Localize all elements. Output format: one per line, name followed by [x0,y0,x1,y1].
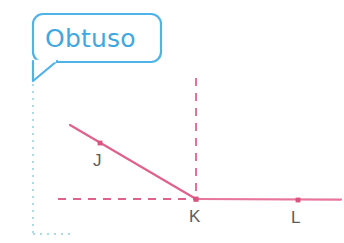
point-marker-j [98,141,103,146]
diagram-canvas: Obtuso J K L [0,0,344,243]
point-label-k: K [189,208,200,225]
callout-bubble-tail-outline [33,61,57,81]
point-marker-k [193,197,198,202]
ray-kj [70,125,196,199]
point-label-l: L [291,209,300,226]
callout-label: Obtuso [45,26,136,51]
point-marker-l [296,198,301,203]
point-label-j: J [93,152,102,169]
ray-kl [196,199,341,200]
